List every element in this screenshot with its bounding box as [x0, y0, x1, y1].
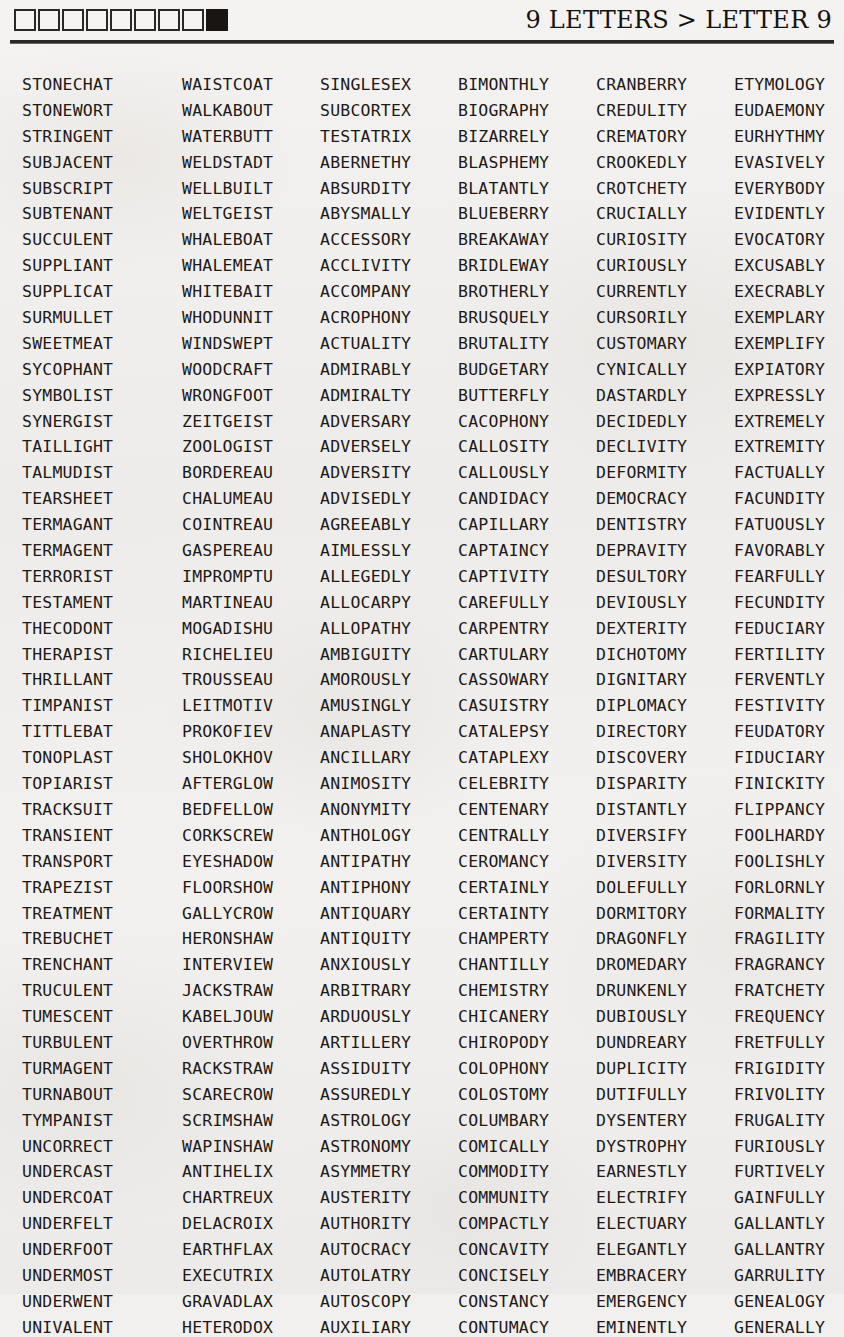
word-cell[interactable]: WAPINSHAW	[182, 1134, 320, 1160]
word-cell[interactable]: EXECRABLY	[734, 279, 844, 305]
word-cell[interactable]: GALLANTLY	[734, 1211, 844, 1237]
word-cell[interactable]: DIGNITARY	[596, 667, 734, 693]
word-cell[interactable]: WOODCRAFT	[182, 357, 320, 383]
word-cell[interactable]: WELDSTADT	[182, 150, 320, 176]
word-cell[interactable]: TOPIARIST	[22, 771, 182, 797]
word-cell[interactable]: GARRULITY	[734, 1263, 844, 1289]
word-cell[interactable]: TALMUDIST	[22, 460, 182, 486]
word-cell[interactable]: TESTATRIX	[320, 124, 458, 150]
word-cell[interactable]: DISTANTLY	[596, 797, 734, 823]
word-cell[interactable]: CURIOUSLY	[596, 253, 734, 279]
word-cell[interactable]: UNIVALENT	[22, 1315, 182, 1337]
word-cell[interactable]: AUXILIARY	[320, 1315, 458, 1337]
word-cell[interactable]: CREDULITY	[596, 98, 734, 124]
word-cell[interactable]: CARTULARY	[458, 642, 596, 668]
word-cell[interactable]: DEXTERITY	[596, 616, 734, 642]
word-cell[interactable]: FEARFULLY	[734, 564, 844, 590]
word-cell[interactable]: DRAGONFLY	[596, 926, 734, 952]
word-cell[interactable]: ABYSMALLY	[320, 201, 458, 227]
word-cell[interactable]: FRIVOLITY	[734, 1082, 844, 1108]
word-cell[interactable]: ALLOPATHY	[320, 616, 458, 642]
word-cell[interactable]: BIOGRAPHY	[458, 98, 596, 124]
word-cell[interactable]: CAREFULLY	[458, 590, 596, 616]
word-cell[interactable]: TERMAGENT	[22, 538, 182, 564]
word-cell[interactable]: EVIDENTLY	[734, 201, 844, 227]
word-cell[interactable]: DRUNKENLY	[596, 978, 734, 1004]
word-cell[interactable]: DISPARITY	[596, 771, 734, 797]
word-cell[interactable]: AUTOCRACY	[320, 1237, 458, 1263]
word-cell[interactable]: UNDERCOAT	[22, 1185, 182, 1211]
word-cell[interactable]: FRETFULLY	[734, 1030, 844, 1056]
word-cell[interactable]: ARBITRARY	[320, 978, 458, 1004]
word-cell[interactable]: CRUCIALLY	[596, 201, 734, 227]
word-cell[interactable]: GRAVADLAX	[182, 1289, 320, 1315]
word-cell[interactable]: ACCOMPANY	[320, 279, 458, 305]
word-cell[interactable]: WINDSWEPT	[182, 331, 320, 357]
word-cell[interactable]: ADVERSITY	[320, 460, 458, 486]
word-cell[interactable]: WHITEBAIT	[182, 279, 320, 305]
word-cell[interactable]: CONCAVITY	[458, 1237, 596, 1263]
word-cell[interactable]: CONCISELY	[458, 1263, 596, 1289]
word-cell[interactable]: TONOPLAST	[22, 745, 182, 771]
word-cell[interactable]: DYSTROPHY	[596, 1134, 734, 1160]
word-cell[interactable]: LEITMOTIV	[182, 693, 320, 719]
word-cell[interactable]: CATALEPSY	[458, 719, 596, 745]
word-cell[interactable]: TRANSIENT	[22, 823, 182, 849]
word-cell[interactable]: CURSORILY	[596, 305, 734, 331]
word-cell[interactable]: FLOORSHOW	[182, 875, 320, 901]
word-cell[interactable]: AUTOLATRY	[320, 1263, 458, 1289]
word-cell[interactable]: DECLIVITY	[596, 434, 734, 460]
word-cell[interactable]: PROKOFIEV	[182, 719, 320, 745]
word-cell[interactable]: DIPLOMACY	[596, 693, 734, 719]
word-cell[interactable]: UNDERMOST	[22, 1263, 182, 1289]
word-cell[interactable]: FRATCHETY	[734, 978, 844, 1004]
word-cell[interactable]: CYNICALLY	[596, 357, 734, 383]
word-cell[interactable]: ABSURDITY	[320, 176, 458, 202]
word-cell[interactable]: MOGADISHU	[182, 616, 320, 642]
word-cell[interactable]: CARPENTRY	[458, 616, 596, 642]
word-cell[interactable]: FRAGRANCY	[734, 952, 844, 978]
word-cell[interactable]: OVERTHROW	[182, 1030, 320, 1056]
word-cell[interactable]: FERVENTLY	[734, 667, 844, 693]
word-cell[interactable]: TIMPANIST	[22, 693, 182, 719]
word-cell[interactable]: EVOCATORY	[734, 227, 844, 253]
word-cell[interactable]: DYSENTERY	[596, 1108, 734, 1134]
word-cell[interactable]: DENTISTRY	[596, 512, 734, 538]
word-cell[interactable]: BRIDLEWAY	[458, 253, 596, 279]
word-cell[interactable]: ACROPHONY	[320, 305, 458, 331]
word-cell[interactable]: FACUNDITY	[734, 486, 844, 512]
word-cell[interactable]: BUTTERFLY	[458, 383, 596, 409]
word-cell[interactable]: DIRECTORY	[596, 719, 734, 745]
word-cell[interactable]: STONEWORT	[22, 98, 182, 124]
word-cell[interactable]: CAPTIVITY	[458, 564, 596, 590]
word-cell[interactable]: DASTARDLY	[596, 383, 734, 409]
word-cell[interactable]: ETYMOLOGY	[734, 72, 844, 98]
word-cell[interactable]: BREAKAWAY	[458, 227, 596, 253]
word-cell[interactable]: DEMOCRACY	[596, 486, 734, 512]
word-cell[interactable]: FOOLISHLY	[734, 849, 844, 875]
word-cell[interactable]: GALLANTRY	[734, 1237, 844, 1263]
word-cell[interactable]: SCRIMSHAW	[182, 1108, 320, 1134]
word-cell[interactable]: CASSOWARY	[458, 667, 596, 693]
word-cell[interactable]: ANTIQUITY	[320, 926, 458, 952]
word-cell[interactable]: EARNESTLY	[596, 1159, 734, 1185]
word-cell[interactable]: CEROMANCY	[458, 849, 596, 875]
word-cell[interactable]: SUBTENANT	[22, 201, 182, 227]
word-cell[interactable]: TURBULENT	[22, 1030, 182, 1056]
word-cell[interactable]: ELEGANTLY	[596, 1237, 734, 1263]
word-cell[interactable]: KABELJOUW	[182, 1004, 320, 1030]
word-cell[interactable]: CONSTANCY	[458, 1289, 596, 1315]
word-cell[interactable]: ACCESSORY	[320, 227, 458, 253]
word-cell[interactable]: ALLEGEDLY	[320, 564, 458, 590]
word-cell[interactable]: AFTERGLOW	[182, 771, 320, 797]
letter-box-3[interactable]	[62, 9, 84, 31]
word-cell[interactable]: CELEBRITY	[458, 771, 596, 797]
word-cell[interactable]: ASSUREDLY	[320, 1082, 458, 1108]
word-cell[interactable]: UNDERFELT	[22, 1211, 182, 1237]
word-cell[interactable]: THERAPIST	[22, 642, 182, 668]
word-cell[interactable]: FORLORNLY	[734, 875, 844, 901]
word-cell[interactable]: FESTIVITY	[734, 693, 844, 719]
word-cell[interactable]: DEPRAVITY	[596, 538, 734, 564]
word-cell[interactable]: TRUCULENT	[22, 978, 182, 1004]
word-cell[interactable]: WHALEBOAT	[182, 227, 320, 253]
